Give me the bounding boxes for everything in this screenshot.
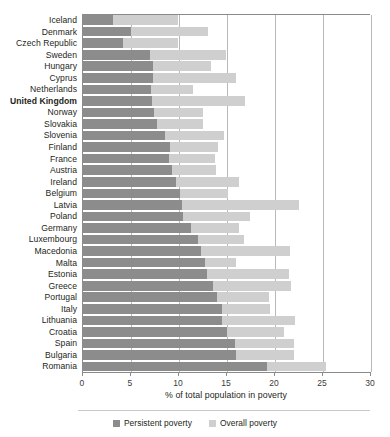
x-axis-title: % of total population in poverty (82, 390, 370, 400)
category-label-belgium: Belgium (46, 187, 77, 199)
category-label-czech-republic: Czech Republic (16, 37, 77, 49)
bar-persistent-poverty (82, 350, 236, 360)
chart-row: Ireland (0, 176, 390, 188)
tick-mark-0 (82, 372, 83, 376)
x-tick-label: 15 (221, 378, 231, 388)
chart-row: Slovakia (0, 118, 390, 130)
bar-persistent-poverty (82, 292, 217, 302)
bar-persistent-poverty (82, 269, 207, 279)
chart-row: Iceland (0, 14, 390, 26)
category-label-luxembourg: Luxembourg (29, 233, 77, 245)
bar-persistent-poverty (82, 316, 222, 326)
legend-swatch-persistent (113, 420, 120, 427)
bar-persistent-poverty (82, 339, 235, 349)
bar-persistent-poverty (82, 108, 154, 118)
chart-row: France (0, 153, 390, 165)
bar-persistent-poverty (82, 154, 169, 164)
chart-row: Sweden (0, 49, 390, 61)
chart-row: Lithuania (0, 314, 390, 326)
chart-row: Italy (0, 303, 390, 315)
bar-persistent-poverty (82, 235, 198, 245)
category-label-iceland: Iceland (49, 14, 77, 26)
bar-persistent-poverty (82, 246, 201, 256)
chart-row: United Kingdom (0, 95, 390, 107)
chart-row: Malta (0, 257, 390, 269)
chart-row: Finland (0, 141, 390, 153)
tick-mark-10 (178, 372, 179, 376)
bar-persistent-poverty (82, 131, 165, 141)
bar-persistent-poverty (82, 177, 176, 187)
legend-swatch-overall (209, 420, 216, 427)
category-label-ireland: Ireland (50, 176, 77, 188)
chart-legend: Persistent povertyOverall poverty (0, 418, 390, 428)
category-label-italy: Italy (61, 303, 77, 315)
chart-row: Portugal (0, 291, 390, 303)
chart-row: Belgium (0, 187, 390, 199)
bar-persistent-poverty (82, 165, 172, 175)
category-label-slovenia: Slovenia (44, 129, 77, 141)
bar-persistent-poverty (82, 119, 157, 129)
x-tick-label: 20 (269, 378, 279, 388)
category-label-lithuania: Lithuania (42, 314, 77, 326)
x-tick-label: 5 (128, 378, 133, 388)
category-label-denmark: Denmark (42, 26, 77, 38)
poverty-bar-chart: IcelandDenmarkCzech RepublicSwedenHungar… (0, 0, 390, 437)
bar-persistent-poverty (82, 362, 267, 372)
category-label-norway: Norway (48, 106, 77, 118)
category-label-latvia: Latvia (54, 199, 77, 211)
bar-persistent-poverty (82, 223, 191, 233)
chart-row: Romania (0, 360, 390, 372)
category-label-slovakia: Slovakia (44, 118, 77, 130)
chart-row: Norway (0, 106, 390, 118)
legend-label: Persistent poverty (124, 418, 192, 428)
bar-persistent-poverty (82, 200, 182, 210)
chart-row: Estonia (0, 268, 390, 280)
chart-row: Latvia (0, 199, 390, 211)
legend-divider (78, 410, 370, 411)
chart-row: Bulgaria (0, 349, 390, 361)
category-label-austria: Austria (50, 164, 77, 176)
bar-persistent-poverty (82, 212, 183, 222)
legend-item-overall: Overall poverty (209, 418, 277, 428)
chart-row: Czech Republic (0, 37, 390, 49)
category-label-malta: Malta (56, 257, 77, 269)
category-label-poland: Poland (50, 210, 77, 222)
bar-persistent-poverty (82, 189, 180, 199)
chart-row: Poland (0, 210, 390, 222)
category-label-spain: Spain (55, 337, 77, 349)
bar-persistent-poverty (82, 73, 153, 83)
bar-persistent-poverty (82, 96, 152, 106)
category-label-hungary: Hungary (44, 60, 77, 72)
bar-persistent-poverty (82, 85, 151, 95)
tick-mark-20 (274, 372, 275, 376)
legend-item-persistent: Persistent poverty (113, 418, 192, 428)
chart-row: Austria (0, 164, 390, 176)
chart-row: Hungary (0, 60, 390, 72)
bar-persistent-poverty (82, 281, 213, 291)
bar-persistent-poverty (82, 258, 205, 268)
chart-row: Germany (0, 222, 390, 234)
x-tick-label: 0 (80, 378, 85, 388)
bar-persistent-poverty (82, 304, 222, 314)
chart-row: Luxembourg (0, 233, 390, 245)
chart-row: Slovenia (0, 129, 390, 141)
bar-persistent-poverty (82, 142, 170, 152)
x-tick-label: 10 (173, 378, 183, 388)
category-label-portugal: Portugal (45, 291, 77, 303)
bar-persistent-poverty (82, 15, 113, 25)
category-label-estonia: Estonia (48, 268, 77, 280)
bar-persistent-poverty (82, 27, 131, 37)
tick-mark-5 (130, 372, 131, 376)
category-label-greece: Greece (49, 280, 77, 292)
category-label-finland: Finland (48, 141, 77, 153)
category-label-united-kingdom: United Kingdom (10, 95, 77, 107)
bar-persistent-poverty (82, 50, 150, 60)
bar-persistent-poverty (82, 61, 153, 71)
tick-mark-30 (370, 372, 371, 376)
chart-row: Denmark (0, 26, 390, 38)
x-tick-label: 30 (365, 378, 375, 388)
category-label-cyprus: Cyprus (49, 72, 77, 84)
chart-row: Croatia (0, 326, 390, 338)
chart-row: Macedonia (0, 245, 390, 257)
x-tick-label: 25 (317, 378, 327, 388)
